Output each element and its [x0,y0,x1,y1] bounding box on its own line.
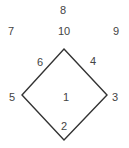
position-7: 7 [8,25,14,37]
position-4: 4 [90,55,96,67]
position-10: 10 [58,25,70,37]
position-3: 3 [112,91,118,103]
position-6: 6 [37,56,43,68]
position-diagram: 1 2 3 4 5 6 7 8 9 10 [0,0,129,148]
position-1: 1 [63,91,69,103]
position-5: 5 [9,91,15,103]
position-8: 8 [60,4,66,16]
position-2: 2 [61,120,67,132]
position-9: 9 [113,25,119,37]
